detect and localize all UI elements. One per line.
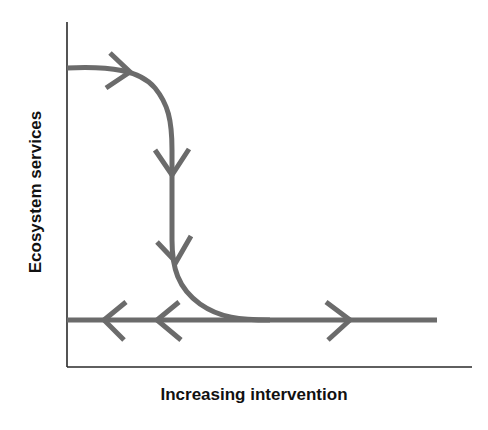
y-axis-label: Ecosystem services	[26, 111, 46, 274]
diagram-canvas	[0, 0, 488, 430]
x-axis-label: Increasing intervention	[0, 385, 488, 405]
upper-curve	[67, 68, 270, 320]
